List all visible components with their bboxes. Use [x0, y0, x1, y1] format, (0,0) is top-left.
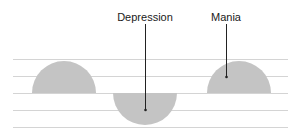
depression-marker-dot: [144, 109, 147, 112]
mania-hump: [207, 61, 271, 93]
depression-label: Depression: [117, 11, 173, 23]
mood-cycle-diagram: Depression Mania: [0, 0, 308, 133]
mania-marker-dot: [225, 76, 228, 79]
normal-mood-hump: [32, 61, 96, 93]
mania-label: Mania: [211, 11, 242, 23]
